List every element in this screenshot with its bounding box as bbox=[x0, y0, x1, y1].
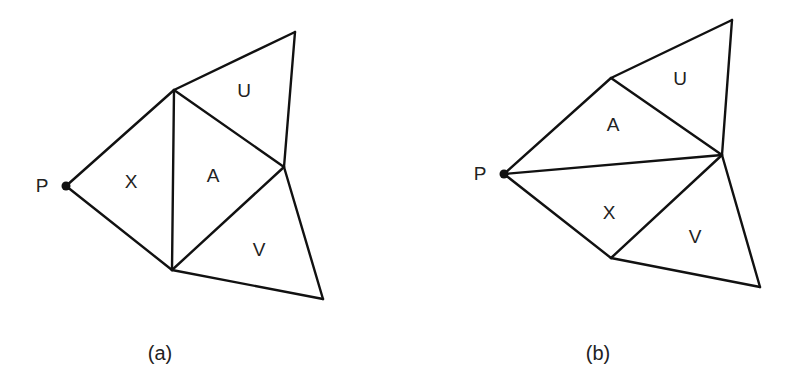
edge-top-right bbox=[174, 90, 284, 167]
edge-bottom-right bbox=[172, 167, 284, 270]
edge-p-right-diagonal bbox=[504, 155, 722, 174]
edge-right-vbottom bbox=[722, 155, 760, 287]
point-p-dot bbox=[500, 170, 509, 179]
edge-top-utop bbox=[611, 20, 732, 78]
edge-bottom-vbottom bbox=[172, 270, 323, 299]
region-v-label: V bbox=[689, 226, 702, 247]
panel-b: P A X U V (b) bbox=[474, 20, 760, 364]
edge-p-top bbox=[66, 90, 174, 186]
edge-top-right bbox=[611, 78, 722, 155]
point-p-label: P bbox=[36, 175, 49, 196]
edge-p-bottom bbox=[504, 174, 611, 258]
panel-a: P X A U V (a) bbox=[36, 32, 323, 364]
point-p-dot bbox=[62, 182, 71, 191]
edge-utop-right bbox=[284, 32, 295, 167]
edge-top-bottom-diagonal bbox=[172, 90, 174, 270]
edge-right-vbottom bbox=[284, 167, 323, 299]
region-u-label: U bbox=[237, 80, 251, 101]
triangle-flip-diagram: P X A U V (a) P A X U V (b) bbox=[0, 0, 792, 391]
edge-bottom-vbottom bbox=[611, 258, 760, 287]
region-v-label: V bbox=[253, 239, 266, 260]
region-x-label: X bbox=[603, 202, 616, 223]
region-x-label: X bbox=[125, 171, 138, 192]
edge-bottom-right bbox=[611, 155, 722, 258]
region-u-label: U bbox=[673, 68, 687, 89]
caption-b: (b) bbox=[586, 342, 610, 364]
point-p-label: P bbox=[474, 163, 487, 184]
region-a-label: A bbox=[207, 165, 220, 186]
caption-a: (a) bbox=[148, 342, 172, 364]
edge-top-utop bbox=[174, 32, 295, 90]
edge-p-top bbox=[504, 78, 611, 174]
edge-p-bottom bbox=[66, 186, 172, 270]
edge-utop-right bbox=[722, 20, 732, 155]
region-a-label: A bbox=[607, 114, 620, 135]
